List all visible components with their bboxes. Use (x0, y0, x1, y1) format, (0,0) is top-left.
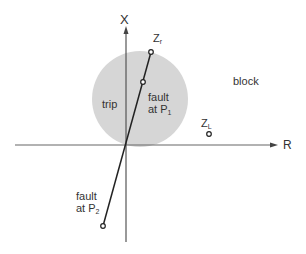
zl-label: ZL (201, 117, 212, 133)
trip-label: trip (102, 98, 117, 110)
block-label: block (233, 75, 259, 87)
x-axis-label: X (120, 14, 129, 26)
zr-point (149, 50, 154, 55)
zr-label: Zr (153, 32, 162, 48)
p1-point (141, 80, 146, 85)
r-axis-arrow-icon (270, 143, 278, 148)
fault-p1-label: fault at P1 (148, 91, 171, 119)
fault-p2-label: fault at P2 (76, 190, 99, 218)
p2-point (101, 224, 106, 229)
x-axis-arrow-icon (124, 26, 129, 34)
r-axis-label: R (283, 139, 292, 151)
